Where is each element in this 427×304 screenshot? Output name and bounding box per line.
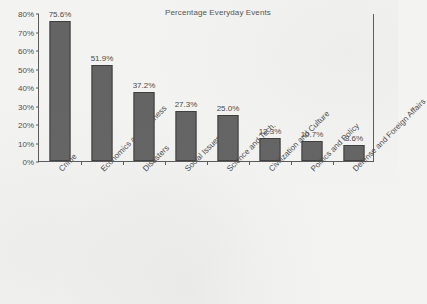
bar-group: 27.3%Social Issues xyxy=(165,14,207,161)
bar-group: 8.6%Defense and Foreign Affairs xyxy=(333,14,375,161)
bar-group: 25.0%Science and Tech. xyxy=(207,14,249,161)
bar-value-label: 37.2% xyxy=(133,81,156,90)
x-axis-tick-mark xyxy=(333,161,334,165)
y-axis-tick-label: 80% xyxy=(18,10,34,19)
bar[interactable] xyxy=(134,92,155,161)
bar-value-label: 12.3% xyxy=(259,127,282,136)
bar-value-label: 27.3% xyxy=(175,100,198,109)
bar[interactable] xyxy=(50,21,71,161)
y-axis-tick-mark xyxy=(36,162,40,163)
y-axis-tick-label: 50% xyxy=(18,65,34,74)
y-axis-tick-label: 10% xyxy=(18,139,34,148)
x-axis-tick-mark xyxy=(123,161,124,165)
y-axis-tick-label: 60% xyxy=(18,47,34,56)
bar-group: 51.9%Economics and Business xyxy=(81,14,123,161)
bar-value-label: 51.9% xyxy=(91,54,114,63)
x-axis-tick-mark xyxy=(81,161,82,165)
x-axis-tick-mark xyxy=(291,161,292,165)
y-axis-tick-label: 70% xyxy=(18,28,34,37)
plot-area: 0%10%20%30%40%50%60%70%80%75.6%Crime51.9… xyxy=(39,14,373,161)
x-axis-tick-mark xyxy=(249,161,250,165)
y-axis-tick-label: 30% xyxy=(18,102,34,111)
y-axis-tick-label: 0% xyxy=(22,158,34,167)
x-axis-tick-mark xyxy=(207,161,208,165)
bar-group: 75.6%Crime xyxy=(39,14,81,161)
y-axis-tick-label: 20% xyxy=(18,121,34,130)
bar-value-label: 8.6% xyxy=(345,134,363,143)
x-axis-tick-mark xyxy=(165,161,166,165)
bar-group: 37.2%Disasters xyxy=(123,14,165,161)
plot-frame: 0%10%20%30%40%50%60%70%80%75.6%Crime51.9… xyxy=(38,14,374,162)
bar[interactable] xyxy=(218,115,239,161)
bar-value-label: 10.7% xyxy=(301,130,324,139)
bar[interactable] xyxy=(176,111,197,162)
bar-value-label: 75.6% xyxy=(49,10,72,19)
bar-value-label: 25.0% xyxy=(217,104,240,113)
bar[interactable] xyxy=(92,65,113,161)
y-axis-tick-label: 40% xyxy=(18,84,34,93)
bar-group: 12.3%Civilization and Culture xyxy=(249,14,291,161)
bar-group: 10.7%Politics and Policy xyxy=(291,14,333,161)
